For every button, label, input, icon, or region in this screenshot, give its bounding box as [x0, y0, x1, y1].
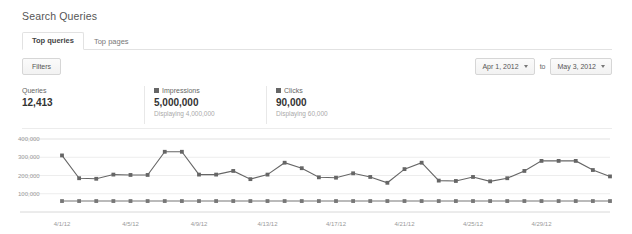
date-end-label: May 3, 2012: [557, 62, 596, 71]
svg-text:4/1/12: 4/1/12: [54, 221, 71, 227]
chevron-down-icon: [601, 65, 605, 68]
tab-bar: Top queries Top pages: [22, 33, 612, 50]
metrics-divider: [22, 128, 612, 129]
svg-text:4/13/12: 4/13/12: [257, 221, 278, 227]
metric-cards: Queries 12,413 Impressions 5,000,000 Dis…: [22, 86, 387, 124]
svg-text:400,000: 400,000: [18, 136, 40, 142]
date-end-button[interactable]: May 3, 2012: [550, 58, 612, 75]
svg-text:200,000: 200,000: [18, 173, 40, 179]
metric-impressions-head: Impressions: [154, 86, 266, 95]
tab-top-queries-label: Top queries: [32, 36, 74, 45]
svg-text:4/21/12: 4/21/12: [394, 221, 415, 227]
svg-text:4/17/12: 4/17/12: [326, 221, 347, 227]
metric-clicks-value: 90,000: [276, 97, 387, 109]
metric-card-clicks[interactable]: Clicks 90,000 Displaying 60,000: [266, 86, 387, 124]
metric-card-queries[interactable]: Queries 12,413: [22, 86, 144, 124]
metric-impressions-label: Impressions: [162, 86, 200, 95]
metric-impressions-value: 5,000,000: [154, 97, 266, 109]
impressions-clicks-chart[interactable]: 400,000300,000200,000100,0004/1/124/5/12…: [14, 133, 620, 232]
metric-impressions-sub: Displaying 4,000,000: [154, 110, 266, 118]
toolbar: Filters Apr 1, 2012 to May 3, 2012: [22, 58, 612, 76]
tab-top-queries[interactable]: Top queries: [22, 32, 84, 50]
tab-top-pages[interactable]: Top pages: [84, 33, 139, 50]
metric-clicks-label: Clicks: [284, 86, 303, 95]
date-to-label: to: [540, 63, 546, 70]
page-title: Search Queries: [22, 10, 97, 22]
filters-button[interactable]: Filters: [22, 58, 61, 75]
date-start-label: Apr 1, 2012: [482, 62, 518, 71]
svg-text:4/25/12: 4/25/12: [463, 221, 484, 227]
chart-canvas: 400,000300,000200,000100,0004/1/124/5/12…: [14, 133, 620, 232]
svg-text:300,000: 300,000: [18, 154, 40, 160]
metric-card-impressions[interactable]: Impressions 5,000,000 Displaying 4,000,0…: [144, 86, 266, 124]
clicks-color-swatch: [276, 88, 281, 93]
metric-queries-value: 12,413: [22, 97, 144, 109]
svg-text:100,000: 100,000: [18, 191, 40, 197]
metric-queries-label: Queries: [22, 86, 47, 95]
metric-clicks-head: Clicks: [276, 86, 387, 95]
search-queries-page: Search Queries Top queries Top pages Fil…: [0, 0, 632, 234]
chevron-down-icon: [524, 65, 528, 68]
tab-top-pages-label: Top pages: [94, 37, 129, 46]
svg-text:4/9/12: 4/9/12: [191, 221, 208, 227]
metric-queries-head: Queries: [22, 86, 144, 95]
date-start-button[interactable]: Apr 1, 2012: [475, 58, 534, 75]
date-range-picker: Apr 1, 2012 to May 3, 2012: [475, 58, 612, 75]
filters-button-label: Filters: [32, 63, 51, 70]
impressions-color-swatch: [154, 88, 159, 93]
metric-clicks-sub: Displaying 60,000: [276, 110, 387, 118]
svg-text:4/5/12: 4/5/12: [122, 221, 139, 227]
svg-text:4/29/12: 4/29/12: [531, 221, 552, 227]
